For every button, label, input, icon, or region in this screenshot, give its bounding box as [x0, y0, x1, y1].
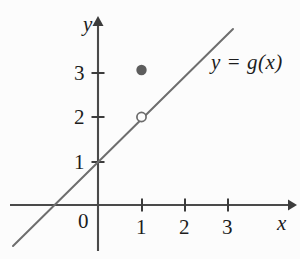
- x-axis-arrowhead: [288, 200, 297, 211]
- function-line: [13, 29, 233, 246]
- open-circle-marker: [137, 112, 146, 121]
- curve-equation-label: y = g(x): [211, 52, 283, 73]
- y-axis-group: [93, 16, 104, 251]
- x-tick-label-2: 2: [179, 217, 190, 238]
- y-tick-label-1: 1: [74, 152, 85, 173]
- y-tick-label-3: 3: [74, 63, 85, 84]
- math-figure: y x 0 1 2 3 1 2 3 y = g(x): [0, 0, 300, 259]
- filled-dot-marker: [136, 65, 146, 75]
- coordinate-plot: [0, 0, 300, 259]
- origin-label: 0: [78, 211, 89, 232]
- y-tick-label-2: 2: [74, 107, 85, 128]
- y-axis-label: y: [83, 14, 92, 35]
- x-tick-label-1: 1: [136, 217, 147, 238]
- x-axis-group: [10, 200, 297, 211]
- x-tick-label-3: 3: [222, 217, 233, 238]
- y-axis-arrowhead: [93, 16, 104, 26]
- x-axis-label: x: [277, 213, 286, 234]
